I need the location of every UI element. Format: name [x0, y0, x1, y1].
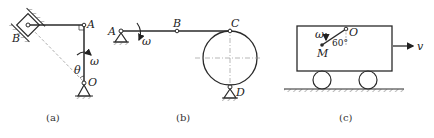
label-m: M [316, 47, 329, 60]
joint-a [82, 23, 86, 27]
label-d: D [235, 86, 245, 99]
label-omega: ω [90, 55, 99, 68]
caption-a: (a) [46, 112, 60, 123]
label-a: A [86, 18, 95, 31]
figure-b: A B C D ω (b) [107, 17, 262, 123]
label-theta: θ [74, 64, 81, 77]
figure-c: ω O M 60° v (c) [284, 26, 424, 123]
mechanics-figure: A B O ω θ (a) A B C D ω (b) [0, 0, 434, 138]
cart-body [297, 26, 392, 71]
label-o-c: O [349, 26, 358, 39]
label-omega-c: ω [315, 28, 324, 41]
caption-c: (c) [339, 112, 353, 123]
support-a-b [115, 33, 127, 42]
label-omega-b: ω [142, 35, 151, 48]
support-d [224, 89, 236, 98]
label-v: v [417, 40, 424, 53]
label-b-b: B [172, 17, 181, 30]
label-c: C [231, 17, 240, 30]
label-a-b: A [107, 25, 116, 38]
joint-b [26, 23, 30, 27]
caption-b: (b) [176, 112, 190, 123]
wheel-left [313, 71, 331, 89]
label-o: O [88, 76, 97, 89]
figure-a: A B O ω θ (a) [9, 6, 99, 123]
wheel-right [359, 71, 377, 89]
label-b: B [11, 32, 20, 45]
label-60: 60° [332, 38, 348, 48]
